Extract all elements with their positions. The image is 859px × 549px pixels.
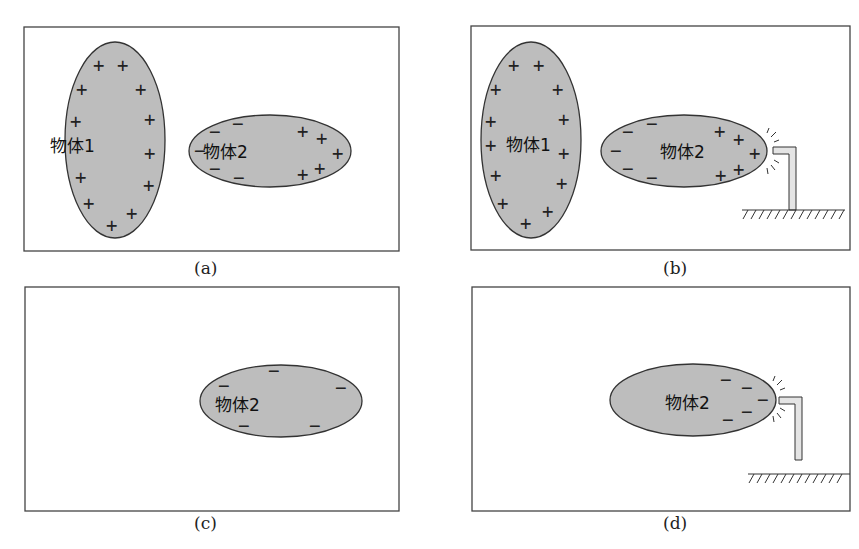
svg-text:+: + <box>126 202 137 224</box>
svg-text:+: + <box>316 127 327 149</box>
object2-label: 物体2 <box>665 393 710 413</box>
svg-text:+: + <box>749 142 760 164</box>
svg-text:+: + <box>490 78 501 100</box>
svg-text:−: − <box>209 120 220 142</box>
svg-text:+: + <box>490 164 501 186</box>
svg-text:−: − <box>646 112 657 134</box>
svg-text:+: + <box>76 78 87 100</box>
svg-text:+: + <box>497 192 508 214</box>
panel-caption: (d) <box>663 513 687 533</box>
svg-text:+: + <box>93 54 104 76</box>
svg-text:+: + <box>714 120 725 142</box>
svg-text:−: − <box>622 157 633 179</box>
panel-c: −− − −− 物体2 (c) <box>25 287 399 533</box>
svg-text:+: + <box>135 78 146 100</box>
svg-text:−: − <box>233 166 244 188</box>
svg-text:−: − <box>757 388 768 410</box>
svg-text:+: + <box>144 108 155 130</box>
svg-text:−: − <box>720 368 731 390</box>
svg-text:+: + <box>508 54 519 76</box>
svg-text:−: − <box>335 376 346 398</box>
svg-text:+: + <box>485 110 496 132</box>
svg-text:−: − <box>646 166 657 188</box>
svg-text:+: + <box>83 192 94 214</box>
object1-label: 物体1 <box>506 135 551 155</box>
svg-text:−: − <box>238 414 249 436</box>
electrostatic-induction-diagram: ++ ++ ++ + ++ ++ + 物体1 −− − −− ++ + ++ 物… <box>0 0 859 549</box>
svg-text:−: − <box>622 120 633 142</box>
svg-text:+: + <box>70 110 81 132</box>
panel-caption: (c) <box>194 513 217 533</box>
svg-text:+: + <box>715 164 726 186</box>
svg-text:+: + <box>558 142 569 164</box>
svg-text:+: + <box>332 142 343 164</box>
svg-text:−: − <box>309 414 320 436</box>
svg-text:−: − <box>741 400 752 422</box>
object2-label: 物体2 <box>660 142 705 162</box>
svg-text:+: + <box>297 163 308 185</box>
svg-text:−: − <box>232 112 243 134</box>
panel-b: ++ ++ ++ ++ ++ ++ + 物体1 −− − −− ++ + ++ … <box>471 26 850 278</box>
panel-d: −− − −− 物体2 (d) <box>472 287 850 533</box>
panel-a: ++ ++ ++ + ++ ++ + 物体1 −− − −− ++ + ++ 物… <box>24 27 399 278</box>
svg-text:+: + <box>552 78 563 100</box>
svg-text:−: − <box>741 376 752 398</box>
panel-caption: (a) <box>194 258 217 278</box>
svg-text:+: + <box>75 166 86 188</box>
object2-label: 物体2 <box>203 142 248 162</box>
svg-text:+: + <box>533 54 544 76</box>
svg-text:+: + <box>733 128 744 150</box>
svg-text:+: + <box>542 200 553 222</box>
svg-text:+: + <box>117 54 128 76</box>
svg-text:+: + <box>558 108 569 130</box>
svg-text:+: + <box>297 120 308 142</box>
panel-caption: (b) <box>663 258 687 278</box>
svg-text:+: + <box>520 212 531 234</box>
svg-text:−: − <box>722 408 733 430</box>
svg-text:+: + <box>314 157 325 179</box>
svg-text:−: − <box>610 139 621 161</box>
svg-text:+: + <box>106 214 117 236</box>
object1-label: 物体1 <box>50 136 95 156</box>
svg-text:+: + <box>143 174 154 196</box>
svg-text:−: − <box>218 374 229 396</box>
svg-text:+: + <box>485 134 496 156</box>
svg-text:+: + <box>733 158 744 180</box>
svg-text:−: − <box>268 359 279 381</box>
svg-text:+: + <box>144 142 155 164</box>
svg-text:+: + <box>556 172 567 194</box>
object2-label: 物体2 <box>215 395 260 415</box>
